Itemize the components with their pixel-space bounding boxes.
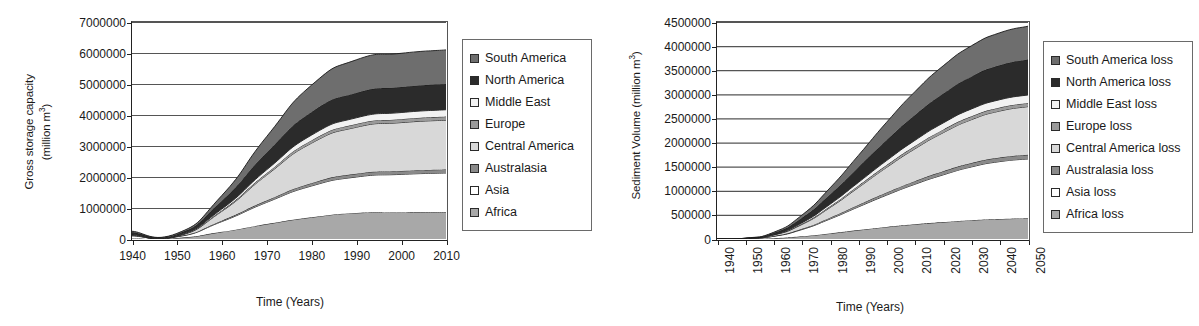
legend-item-label: Australasia [485,162,547,175]
legend-item-label: Australasia loss [1066,164,1154,177]
x-tick-label: 1950 [751,247,765,274]
legend-item[interactable]: Africa loss [1051,203,1184,225]
legend-item-label: South America [485,52,566,65]
legend-item-label: Middle East loss [1066,98,1157,111]
x-tick-label: 1960 [779,247,793,274]
legend-swatch-icon [470,164,479,173]
legend-item[interactable]: North America [470,69,583,91]
legend-item-label: Asia loss [1066,186,1116,199]
x-axis-title-right: Time (Years) [760,300,980,314]
x-tick-label: 1980 [836,247,850,274]
legend-swatch-icon [1051,210,1060,219]
legend-swatch-icon [470,142,479,151]
legend-item[interactable]: North America loss [1051,71,1184,93]
legend-item-label: Middle East [485,96,550,109]
legend-swatch-icon [1051,78,1060,87]
legend-item[interactable]: Middle East loss [1051,93,1184,115]
legend-item[interactable]: Europe [470,113,583,135]
legend-item[interactable]: Australasia loss [1051,159,1184,181]
chart-panel-sediment-volume-loss: Sediment Volume (million m3) 05000001000… [600,0,1199,326]
x-tick-label: 2030 [977,247,991,274]
x-tick-label: 2050 [1034,247,1048,274]
legend-item-label: South America loss [1066,54,1173,67]
x-tick-label: 2010 [433,249,460,263]
legend-swatch-icon [1051,56,1060,65]
legend-item-label: Asia [485,184,509,197]
legend-swatch-icon [470,186,479,195]
chart-panel-gross-storage-capacity: Gross storage capacity(million m3) 01000… [0,0,600,326]
legend-item-label: Europe loss [1066,120,1132,133]
legend-swatch-icon [470,120,479,129]
x-tick-label: 1960 [209,249,236,263]
legend-item[interactable]: South America [470,47,583,69]
x-tick-label: 1950 [164,249,191,263]
legend-item[interactable]: Australasia [470,157,583,179]
x-tick-label: 1970 [254,249,281,263]
x-tick-label: 1940 [723,247,737,274]
x-axis-title-left: Time (Years) [190,295,390,309]
legend-item[interactable]: Europe loss [1051,115,1184,137]
x-tick-label: 2020 [949,247,963,274]
legend-item[interactable]: Central America [470,135,583,157]
x-tick-label: 2000 [388,249,415,263]
legend-item[interactable]: Asia [470,179,583,201]
legend-item-label: Central America loss [1066,142,1181,155]
legend-item-label: Central America [485,140,574,153]
legend-swatch-icon [1051,100,1060,109]
figure-page: Gross storage capacity(million m3) 01000… [0,0,1199,326]
legend-item-label: Africa [485,206,517,219]
x-tick-label: 2040 [1005,247,1019,274]
legend-item[interactable]: South America loss [1051,49,1184,71]
legend-right: South America lossNorth America lossMidd… [1043,41,1193,233]
legend-swatch-icon [470,208,479,217]
legend-swatch-icon [1051,144,1060,153]
legend-item[interactable]: Central America loss [1051,137,1184,159]
legend-left: South AmericaNorth AmericaMiddle EastEur… [462,39,592,231]
legend-swatch-icon [470,98,479,107]
x-tick-label: 1990 [864,247,878,274]
legend-item[interactable]: Middle East [470,91,583,113]
legend-item[interactable]: Asia loss [1051,181,1184,203]
legend-item-label: North America [485,74,564,87]
legend-item-label: Europe [485,118,525,131]
legend-item[interactable]: Africa [470,201,583,223]
legend-swatch-icon [470,76,479,85]
x-tick-label: 2010 [920,247,934,274]
legend-item-label: Africa loss [1066,208,1124,221]
x-tick-label: 1970 [807,247,821,274]
x-tick-label: 1980 [299,249,326,263]
legend-swatch-icon [1051,166,1060,175]
legend-swatch-icon [1051,122,1060,131]
x-tick-label: 1990 [343,249,370,263]
legend-swatch-icon [470,54,479,63]
legend-item-label: North America loss [1066,76,1171,89]
x-tick-label: 2000 [892,247,906,274]
legend-swatch-icon [1051,188,1060,197]
x-tick-label: 1940 [119,249,146,263]
